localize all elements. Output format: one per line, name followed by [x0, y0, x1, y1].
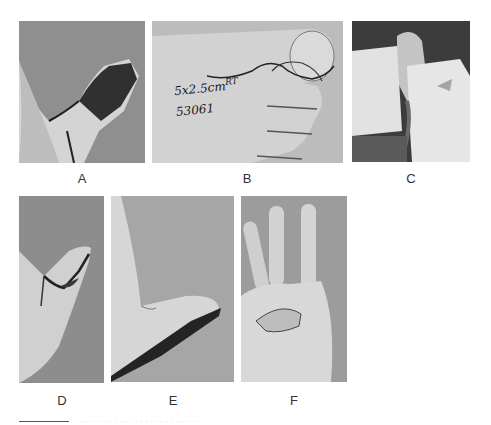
healed-thumb-lateral-image	[111, 196, 234, 382]
panel-f-photo	[241, 196, 347, 382]
surgical-drape-image	[352, 21, 470, 162]
panel-b-label: B	[232, 171, 262, 186]
palm-view-image	[241, 196, 347, 382]
panel-c-photo	[352, 21, 470, 162]
panel-e-label: E	[158, 393, 188, 408]
caption-rule	[19, 421, 69, 422]
panel-c-label: C	[396, 171, 426, 186]
panel-f-label: F	[279, 393, 309, 408]
panel-b-photo: 5x2.5cmRT 53061	[152, 21, 343, 163]
panel-d-label: D	[47, 393, 77, 408]
panel-d-photo	[19, 196, 104, 383]
panel-e-photo	[111, 196, 234, 382]
side-marker-text: RT	[225, 76, 239, 87]
figure-caption: · · · · · · · · · · · · · · · · · · · · …	[80, 418, 199, 424]
panel-a-photo	[19, 21, 145, 163]
panel-a-label: A	[67, 171, 97, 186]
thumb-eschar-image	[19, 21, 145, 163]
sutured-thumb-image	[19, 196, 104, 383]
